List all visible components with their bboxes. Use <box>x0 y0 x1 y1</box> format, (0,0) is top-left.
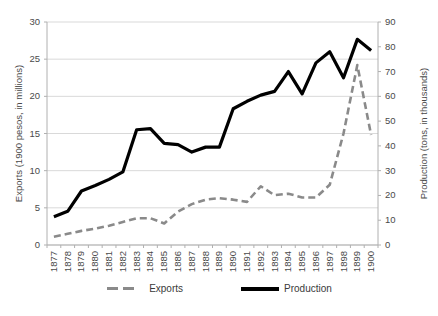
x-tick-1884: 1884 <box>145 251 155 272</box>
left-tick-15: 15 <box>16 129 40 139</box>
x-tick-1899: 1899 <box>352 251 362 272</box>
x-tick-1882: 1882 <box>118 251 128 272</box>
right-tick-80: 80 <box>385 42 409 52</box>
x-tick-1889: 1889 <box>214 251 224 272</box>
legend-swatch-solid-icon <box>241 284 279 293</box>
x-tick-1892: 1892 <box>256 251 266 272</box>
legend-label-exports: Exports <box>149 283 183 294</box>
chart-legend: Exports Production <box>0 283 438 294</box>
x-tick-1895: 1895 <box>297 251 307 272</box>
x-tick-1887: 1887 <box>187 251 197 272</box>
x-tick-1890: 1890 <box>228 251 238 272</box>
legend-label-production: Production <box>284 283 332 294</box>
right-tick-60: 60 <box>385 91 409 101</box>
chart-container: Exports (1900 pesos, in millions) Produc… <box>0 0 438 316</box>
right-tick-10: 10 <box>385 215 409 225</box>
x-tick-1879: 1879 <box>76 251 86 272</box>
right-tick-90: 90 <box>385 17 409 27</box>
x-tick-1900: 1900 <box>366 251 376 272</box>
left-tick-25: 25 <box>16 54 40 64</box>
left-tick-0: 0 <box>16 240 40 250</box>
x-tick-1877: 1877 <box>49 251 59 272</box>
gridlines <box>47 22 378 245</box>
right-tick-50: 50 <box>385 116 409 126</box>
legend-item-production: Production <box>241 283 332 294</box>
left-tick-10: 10 <box>16 166 40 176</box>
series-line-production <box>54 39 371 216</box>
x-tick-1898: 1898 <box>339 251 349 272</box>
x-tick-1891: 1891 <box>242 251 252 272</box>
legend-swatch-dashed-icon <box>106 284 144 293</box>
x-tick-1893: 1893 <box>270 251 280 272</box>
x-tick-1888: 1888 <box>201 251 211 272</box>
right-tick-40: 40 <box>385 141 409 151</box>
legend-item-exports: Exports <box>106 283 183 294</box>
left-tick-20: 20 <box>16 91 40 101</box>
right-tick-0: 0 <box>385 240 409 250</box>
x-tick-1897: 1897 <box>325 251 335 272</box>
left-tick-5: 5 <box>16 203 40 213</box>
x-tick-1885: 1885 <box>159 251 169 272</box>
left-tick-30: 30 <box>16 17 40 27</box>
x-tick-1880: 1880 <box>90 251 100 272</box>
series-line-exports <box>54 65 371 237</box>
right-tick-70: 70 <box>385 67 409 77</box>
x-tick-1883: 1883 <box>132 251 142 272</box>
right-tick-30: 30 <box>385 166 409 176</box>
x-tick-1896: 1896 <box>311 251 321 272</box>
right-tick-20: 20 <box>385 190 409 200</box>
series-layer <box>54 39 371 236</box>
right-axis-title: Production (tons, in thousands) <box>418 39 429 229</box>
x-tick-1881: 1881 <box>104 251 114 272</box>
x-tick-1878: 1878 <box>63 251 73 272</box>
x-tick-1894: 1894 <box>283 251 293 272</box>
x-tick-1886: 1886 <box>173 251 183 272</box>
